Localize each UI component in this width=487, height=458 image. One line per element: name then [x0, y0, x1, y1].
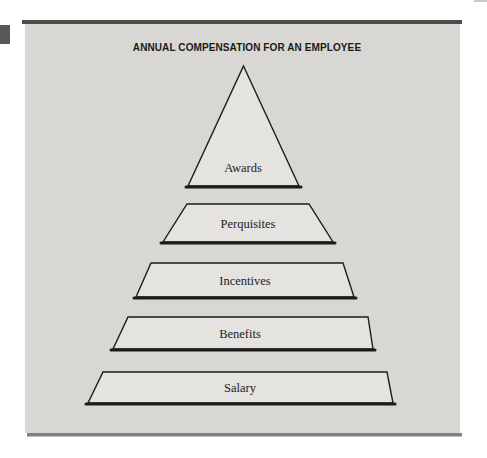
figure-title: ANNUAL COMPENSATION FOR AN EMPLOYEE	[133, 42, 362, 53]
salary-label: Salary	[224, 381, 257, 395]
benefits-label: Benefits	[219, 327, 261, 341]
pyramid-level-incentives: Incentives	[134, 263, 356, 298]
incentives-label: Incentives	[219, 274, 271, 288]
pyramid-level-perquisites: Perquisites	[161, 204, 335, 243]
figure-top-rule	[22, 20, 462, 24]
pyramid-level-benefits: Benefits	[111, 317, 375, 350]
margin-tab-square	[0, 25, 10, 44]
figure-bottom-rule	[27, 433, 462, 437]
pyramid-level-salary: Salary	[86, 372, 395, 404]
compensation-pyramid-figure: ANNUAL COMPENSATION FOR AN EMPLOYEE Awar…	[0, 0, 487, 458]
scanned-page: ANNUAL COMPENSATION FOR AN EMPLOYEE Awar…	[0, 0, 487, 458]
scan-edge-mark	[474, 0, 487, 2]
perquisites-label: Perquisites	[221, 217, 276, 231]
awards-label: Awards	[224, 161, 262, 175]
